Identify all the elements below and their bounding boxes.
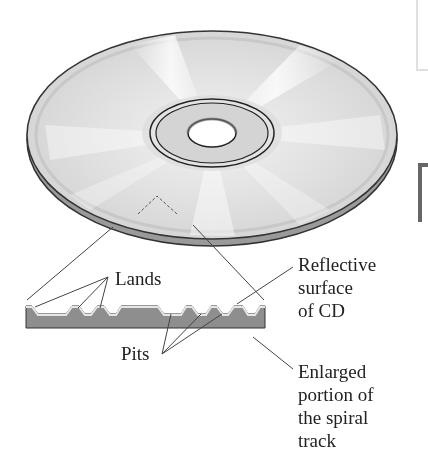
edge-frame-bottom [420,165,428,222]
label-lands: Lands [115,267,161,290]
label-reflective-line-2: surface [298,276,376,299]
cd-disc [27,31,397,246]
label-enlarged-portion: Enlarged portion of the spiral track [298,360,373,452]
lands-leaders [35,277,108,308]
zoom-line-left [27,227,113,300]
label-reflective-line-3: of CD [298,299,376,322]
label-enlarged-line-4: track [298,429,373,452]
label-pits: Pits [121,342,150,365]
label-enlarged-line-3: the spiral [298,406,373,429]
reflective-leader [237,267,293,304]
label-enlarged-line-1: Enlarged [298,360,373,383]
enlarged-track [26,306,265,328]
label-reflective-line-1: Reflective [298,253,376,276]
label-reflective-surface: Reflective surface of CD [298,253,376,322]
edge-frame-top [417,0,428,70]
enlarged-leader [253,337,293,369]
label-enlarged-line-2: portion of [298,383,373,406]
